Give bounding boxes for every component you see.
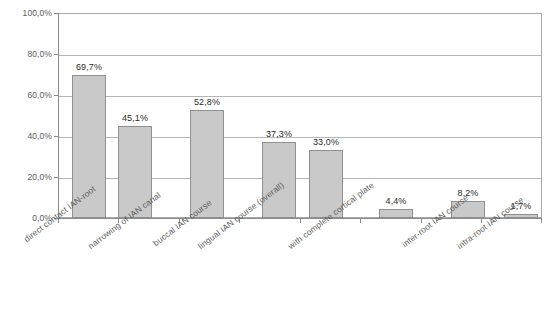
y-tick-label-80: 80,0% — [0, 49, 52, 59]
bar-value-label: 69,7% — [65, 62, 113, 72]
gridline-60 — [59, 96, 541, 97]
bar-incomplete-cortical-plate[interactable] — [379, 209, 413, 218]
x-tick-mark-6 — [421, 219, 422, 223]
y-tick-mark-100 — [54, 13, 58, 14]
bar-chart: 100,0% 80,0% 60,0% 40,0% 20,0% 0,0% 69,7… — [0, 0, 550, 309]
y-tick-label-60: 60,0% — [0, 90, 52, 100]
y-tick-mark-60 — [54, 95, 58, 96]
y-tick-label-20: 20,0% — [0, 172, 52, 182]
bar-value-label: 45,1% — [111, 113, 159, 123]
bar-value-label: 37,3% — [255, 129, 303, 139]
bar-value-label: 4,4% — [372, 196, 420, 206]
bar-value-label: 33,0% — [302, 137, 350, 147]
y-axis — [58, 13, 59, 218]
y-tick-mark-20 — [54, 177, 58, 178]
y-tick-mark-80 — [54, 54, 58, 55]
y-tick-mark-40 — [54, 136, 58, 137]
bar-value-label: 52,8% — [183, 97, 231, 107]
x-tick-mark-5 — [360, 219, 361, 223]
x-tick-mark-4 — [300, 219, 301, 223]
gridline-80 — [59, 55, 541, 56]
x-tick-mark-8 — [541, 219, 542, 223]
y-tick-label-100: 100,0% — [0, 8, 52, 18]
y-tick-label-40: 40,0% — [0, 131, 52, 141]
